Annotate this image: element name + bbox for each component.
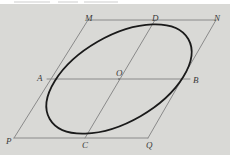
label-P: P — [6, 137, 12, 146]
faint-artifact-left — [14, 1, 50, 3]
figure-canvas: M D N A O B P C Q — [0, 4, 230, 155]
geometry-figure: M D N A O B P C Q — [0, 0, 230, 155]
label-B: B — [193, 76, 199, 85]
vertex-dots — [118, 78, 119, 79]
label-Q: Q — [146, 141, 153, 150]
label-C: C — [82, 141, 88, 150]
faint-artifact-mid — [58, 1, 78, 3]
label-O: O — [116, 69, 123, 78]
label-N: N — [214, 14, 220, 23]
faint-artifact-right — [84, 1, 118, 3]
label-M: M — [85, 14, 93, 23]
dot-O — [118, 78, 119, 79]
label-A: A — [37, 74, 43, 83]
label-D: D — [152, 14, 159, 23]
